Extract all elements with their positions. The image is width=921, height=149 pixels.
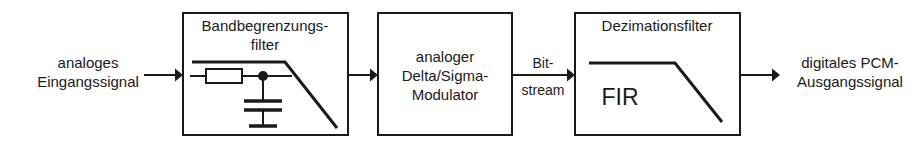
modulator-title-line3: Modulator <box>412 86 479 103</box>
block-bandlimit-filter[interactable]: Bandbegrenzungs- filter <box>183 13 348 135</box>
bitstream-label-line2: stream <box>522 82 565 98</box>
input-label-line2: Eingangssignal <box>37 73 139 90</box>
block-diagram-canvas: analoges Eingangssignal Bandbegrenzungs-… <box>0 0 921 149</box>
fir-label: FIR <box>601 84 638 110</box>
output-label-line2: Ausgangssignal <box>797 73 903 90</box>
decimation-filter-title: Dezimationsfilter <box>602 17 713 34</box>
bandlimit-filter-title-line1: Bandbegrenzungs- <box>202 17 329 34</box>
modulator-title-line2: Delta/Sigma- <box>402 67 489 84</box>
input-arrowhead <box>175 69 183 82</box>
block-delta-sigma-modulator[interactable]: analoger Delta/Sigma- Modulator <box>378 13 512 135</box>
output-label-line1: digitales PCM- <box>801 54 899 71</box>
arrow-bandlimit-to-modulator <box>348 69 378 82</box>
resistor-symbol <box>206 69 242 83</box>
bitstream-connector: Bit- stream <box>512 55 575 98</box>
signal-chain-diagram: analoges Eingangssignal Bandbegrenzungs-… <box>0 0 921 149</box>
decimation-input-arrowhead <box>567 69 575 82</box>
block-decimation-filter[interactable]: Dezimationsfilter FIR <box>575 13 740 135</box>
bitstream-label-line1: Bit- <box>533 55 554 71</box>
input-arrow <box>144 69 183 82</box>
output-arrow <box>740 69 780 82</box>
output-arrowhead <box>772 69 780 82</box>
input-label-line1: analoges <box>58 54 119 71</box>
modulator-input-arrowhead <box>370 69 378 82</box>
bandlimit-filter-title-line2: filter <box>251 36 279 53</box>
modulator-title-line1: analoger <box>416 48 474 65</box>
